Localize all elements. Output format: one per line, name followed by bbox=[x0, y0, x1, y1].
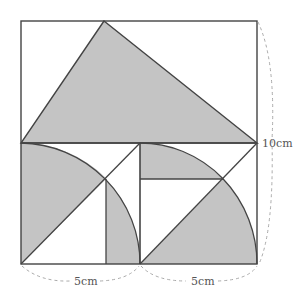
left-shaded-sliver bbox=[106, 179, 140, 264]
height-label: 10cm bbox=[262, 137, 293, 150]
left-width-label: 5cm bbox=[74, 275, 98, 288]
left-shaded-sector bbox=[21, 143, 107, 264]
geometry-diagram: 10cm 5cm 5cm bbox=[0, 0, 306, 302]
right-width-label: 5cm bbox=[191, 275, 215, 288]
right-shaded-sector bbox=[140, 179, 257, 264]
right-shaded-top bbox=[140, 143, 223, 179]
top-triangle bbox=[21, 21, 257, 143]
